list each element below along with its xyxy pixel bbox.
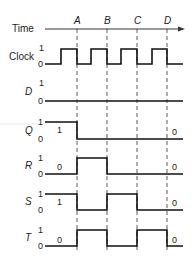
high-level-label: 1 bbox=[38, 117, 43, 127]
start-state-annotation: 1 bbox=[57, 197, 62, 207]
time-axis-label: Time bbox=[12, 23, 34, 34]
high-level-label: 1 bbox=[38, 153, 43, 163]
waveform bbox=[45, 122, 183, 139]
end-state-annotation: 0 bbox=[172, 235, 177, 245]
timing-diagram: Time A B C D Clock 1 0 D 1 0 Q 1 0 1 0 R bbox=[0, 0, 194, 263]
low-level-label: 0 bbox=[38, 134, 43, 144]
marker-c-label: C bbox=[134, 15, 142, 26]
low-level-label: 0 bbox=[38, 241, 43, 251]
high-level-label: 1 bbox=[39, 43, 44, 53]
start-state-annotation: 0 bbox=[57, 162, 62, 172]
arrow-right-icon bbox=[178, 27, 185, 32]
signal-s: S 1 0 1 0 bbox=[25, 189, 183, 215]
signal-d: D 1 0 bbox=[25, 78, 183, 106]
low-level-label: 0 bbox=[38, 96, 43, 106]
signal-name: T bbox=[25, 232, 32, 243]
signal-name: D bbox=[25, 86, 32, 97]
signal-name: S bbox=[25, 196, 32, 207]
low-level-label: 0 bbox=[38, 205, 43, 215]
marker-d-label: D bbox=[164, 15, 171, 26]
marker-a-label: A bbox=[73, 15, 81, 26]
signal-name: R bbox=[25, 160, 32, 171]
marker-b-label: B bbox=[104, 15, 111, 26]
start-state-annotation: 1 bbox=[57, 125, 62, 135]
waveform bbox=[45, 49, 183, 64]
end-state-annotation: 0 bbox=[172, 162, 177, 172]
signal-q: Q 1 0 1 0 bbox=[25, 117, 183, 144]
signal-clock: Clock 1 0 bbox=[9, 43, 183, 69]
end-state-annotation: 0 bbox=[172, 198, 177, 208]
signal-r: R 1 0 0 0 bbox=[25, 153, 183, 179]
signal-name: Clock bbox=[9, 51, 35, 62]
signal-name: Q bbox=[25, 125, 33, 136]
high-level-label: 1 bbox=[38, 225, 43, 235]
high-level-label: 1 bbox=[39, 78, 44, 88]
low-level-label: 0 bbox=[38, 169, 43, 179]
waveform bbox=[45, 158, 183, 174]
low-level-label: 0 bbox=[38, 59, 43, 69]
start-state-annotation: 0 bbox=[57, 235, 62, 245]
high-level-label: 1 bbox=[38, 189, 43, 199]
waveform bbox=[45, 194, 183, 210]
time-axis: Time A B C D bbox=[12, 15, 185, 34]
end-state-annotation: 0 bbox=[172, 127, 177, 137]
signal-t: T 1 0 0 0 bbox=[25, 225, 183, 251]
waveform bbox=[45, 230, 183, 246]
